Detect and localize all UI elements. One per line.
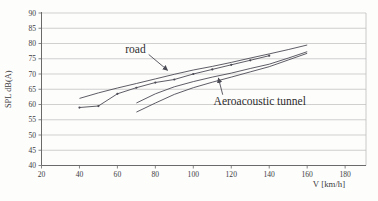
- y-tick-label-50: 50: [28, 131, 36, 140]
- y-tick-label-70: 70: [28, 70, 36, 79]
- x-tick-label-40: 40: [76, 170, 84, 179]
- series-marker: [211, 68, 213, 70]
- x-tick-label-60: 60: [114, 170, 122, 179]
- x-tick-label-80: 80: [152, 170, 160, 179]
- x-tick-label-160: 160: [301, 170, 313, 179]
- y-tick-label-80: 80: [28, 39, 36, 48]
- series-marker: [230, 64, 232, 66]
- y-tick-label-60: 60: [28, 100, 36, 109]
- y-tick-label-85: 85: [28, 24, 36, 33]
- annotation-arrow-1: [218, 78, 222, 95]
- y-tick-label-90: 90: [28, 9, 36, 18]
- y-tick-label-40: 40: [28, 161, 36, 170]
- series-marker: [135, 87, 137, 89]
- y-tick-label-55: 55: [28, 115, 36, 124]
- x-tick-label-100: 100: [188, 170, 200, 179]
- annotation-label-1: Aeroacoustic tunnel: [214, 95, 306, 107]
- series-marker: [97, 105, 99, 107]
- x-tick-label-120: 120: [226, 170, 238, 179]
- series-marker: [116, 93, 118, 95]
- y-tick-label-75: 75: [28, 54, 36, 63]
- y-tick-label-45: 45: [28, 146, 36, 155]
- scanned-line-chart-figure: 4045505560657075808590204060801001201401…: [0, 0, 378, 201]
- spl-vs-speed-line-chart: 4045505560657075808590204060801001201401…: [0, 0, 378, 201]
- series-marker: [78, 106, 80, 108]
- series-line-0-road-upper-run-: [80, 45, 308, 98]
- y-tick-label-65: 65: [28, 85, 36, 94]
- annotation-arrow-0: [149, 54, 168, 70]
- annotation-label-0: road: [125, 43, 146, 55]
- series-marker: [268, 55, 270, 57]
- y-axis-title: SPL dB(A): [4, 70, 13, 108]
- series-marker: [173, 78, 175, 80]
- series-marker: [154, 81, 156, 83]
- series-marker: [249, 59, 251, 61]
- series-marker: [192, 73, 194, 75]
- x-tick-label-140: 140: [264, 170, 276, 179]
- x-axis-title: V [km/h]: [313, 179, 345, 189]
- x-tick-label-20: 20: [38, 170, 46, 179]
